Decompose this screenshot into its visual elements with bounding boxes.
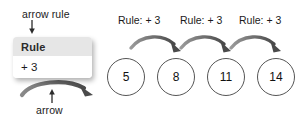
number-circle-3: 11	[207, 58, 245, 96]
chain-rule-label-2: Rule: + 3	[180, 14, 222, 26]
number-circle-2: 8	[157, 58, 195, 96]
number-circle-1-value: 5	[123, 70, 130, 84]
number-circle-2-value: 8	[173, 70, 180, 84]
rule-box-header-label: Rule	[21, 41, 46, 53]
rule-box-curved-arrow-icon	[22, 82, 93, 96]
rule-box-header: Rule	[13, 37, 92, 56]
chain-rule-label-3: Rule: + 3	[239, 14, 281, 26]
number-circle-4: 14	[257, 58, 295, 96]
chain-connector-arrow-3	[231, 37, 281, 53]
rule-box-body-value: + 3	[21, 61, 37, 73]
up-arrow-icon	[49, 89, 55, 103]
number-circle-4-value: 14	[269, 70, 282, 84]
callout-label-arrow-rule: arrow rule	[22, 8, 70, 20]
rule-box-body: + 3	[13, 56, 92, 78]
callout-label-arrow: arrow	[36, 104, 63, 116]
number-circle-1: 5	[107, 58, 145, 96]
chain-connector-arrow-1	[131, 37, 181, 53]
down-arrow-icon	[29, 20, 35, 34]
number-circle-3-value: 11	[220, 70, 232, 84]
chain-rule-label-1: Rule: + 3	[118, 14, 160, 26]
chain-connector-arrow-2	[181, 37, 231, 53]
rule-box: Rule + 3	[13, 37, 92, 78]
function-machine-diagram: arrow rule arrow Rule + 3 Rule: + 3 Rule…	[0, 0, 306, 124]
